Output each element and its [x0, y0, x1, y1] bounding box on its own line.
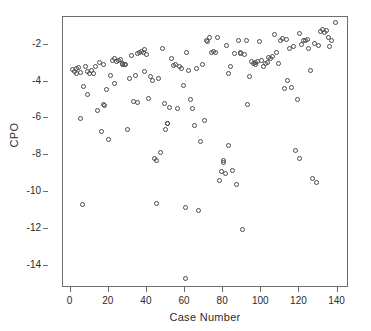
data-point	[142, 69, 147, 74]
data-point	[236, 38, 241, 43]
data-point	[99, 129, 104, 134]
data-point	[181, 83, 186, 88]
data-point	[183, 276, 188, 281]
data-point	[245, 102, 250, 107]
y-axis: CPO -2-4-6-8-10-12-14	[0, 0, 62, 331]
data-point	[217, 178, 222, 183]
data-point	[175, 106, 180, 111]
x-axis: 020406080100120140 Case Number	[0, 287, 371, 331]
x-tick-mark	[184, 287, 185, 292]
data-point	[215, 35, 220, 40]
x-tick-mark	[222, 287, 223, 292]
y-tick-mark	[43, 117, 48, 118]
x-tick-label: 0	[67, 295, 73, 306]
data-point	[308, 68, 313, 73]
y-tick-mark	[43, 81, 48, 82]
data-point	[129, 53, 134, 58]
y-tick-label: -4	[32, 76, 41, 86]
plot-panel	[62, 16, 348, 287]
data-point	[186, 68, 191, 73]
data-point	[247, 74, 252, 79]
data-point	[190, 106, 195, 111]
y-tick-label: -14	[27, 260, 41, 270]
data-point	[198, 139, 203, 144]
data-point	[135, 100, 140, 105]
x-tick-label: 20	[102, 295, 113, 306]
data-point	[196, 208, 201, 213]
data-point	[142, 47, 147, 52]
data-point	[169, 56, 174, 61]
y-tick-label: -6	[32, 112, 41, 122]
data-point	[154, 201, 159, 206]
data-point	[194, 66, 199, 71]
data-point	[314, 180, 319, 185]
data-point	[127, 76, 132, 81]
data-point	[104, 87, 109, 92]
y-tick-mark	[43, 265, 48, 266]
x-tick-label: 120	[290, 295, 307, 306]
data-point	[133, 73, 138, 78]
data-point	[200, 62, 205, 67]
data-point	[167, 105, 172, 110]
data-point	[85, 92, 90, 97]
y-tick-mark	[43, 191, 48, 192]
data-point	[165, 121, 170, 126]
data-point	[78, 70, 83, 75]
data-point	[293, 148, 298, 153]
data-point	[327, 44, 332, 49]
data-point	[305, 37, 310, 42]
data-point	[106, 137, 111, 142]
x-tick-mark	[298, 287, 299, 292]
y-axis-title: CPO	[8, 123, 20, 148]
data-point	[240, 227, 245, 232]
y-tick-label: -2	[32, 39, 41, 49]
data-point	[154, 158, 159, 163]
data-point	[146, 96, 151, 101]
data-point	[291, 44, 296, 49]
data-point	[228, 64, 233, 69]
x-tick-label: 80	[217, 295, 228, 306]
data-point	[244, 38, 249, 43]
data-point	[81, 84, 86, 89]
data-point	[108, 73, 113, 78]
x-tick-label: 140	[328, 295, 345, 306]
data-point	[188, 97, 193, 102]
data-points-layer	[63, 17, 347, 286]
data-point	[93, 64, 98, 69]
x-tick-mark	[108, 287, 109, 292]
data-point	[299, 42, 304, 47]
data-point	[234, 182, 239, 187]
y-tick-label: -12	[27, 223, 41, 233]
data-point	[160, 46, 165, 51]
data-point	[156, 76, 161, 81]
data-point	[101, 62, 106, 67]
data-point	[333, 20, 338, 25]
data-point	[123, 62, 128, 67]
data-point	[226, 71, 231, 76]
data-point	[125, 127, 130, 132]
data-point	[162, 101, 167, 106]
data-point	[285, 78, 290, 83]
x-tick-mark	[337, 287, 338, 292]
data-point	[221, 160, 226, 165]
x-tick-label: 60	[178, 295, 189, 306]
data-point	[270, 54, 275, 59]
data-point	[276, 61, 281, 66]
y-tick-mark	[43, 154, 48, 155]
data-point	[224, 43, 229, 48]
data-point	[192, 123, 197, 128]
data-point	[289, 85, 294, 90]
x-tick-mark	[70, 287, 71, 292]
data-point	[205, 39, 210, 44]
data-point	[257, 39, 262, 44]
data-point	[329, 38, 334, 43]
scatter-plot-figure: CPO -2-4-6-8-10-12-14 020406080100120140…	[0, 0, 371, 331]
data-point	[297, 31, 302, 36]
data-point	[179, 66, 184, 71]
data-point	[184, 50, 189, 55]
data-point	[284, 37, 289, 42]
data-point	[272, 32, 277, 37]
data-point	[230, 168, 235, 173]
x-tick-mark	[260, 287, 261, 292]
data-point	[223, 171, 228, 176]
